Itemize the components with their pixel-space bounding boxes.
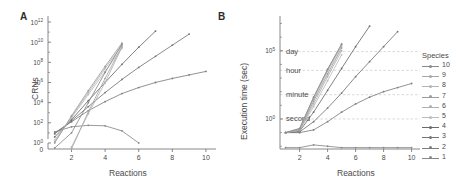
legend-label-6: 6	[442, 102, 446, 109]
legend-marker-3	[429, 136, 432, 139]
series-marker-3	[155, 55, 157, 57]
series-marker-1	[383, 147, 385, 149]
series-line-1	[286, 145, 412, 148]
series-marker-1	[71, 126, 73, 128]
series-marker-10	[285, 132, 287, 134]
series-marker-2	[121, 93, 123, 95]
series-marker-2	[397, 87, 399, 89]
series-marker-2	[205, 71, 207, 73]
series-marker-1	[121, 130, 123, 132]
series-marker-10	[71, 132, 73, 134]
series-marker-3	[397, 31, 399, 33]
series-line-4	[55, 31, 156, 137]
series-marker-1	[369, 147, 371, 149]
legend-label-4: 4	[442, 122, 446, 129]
series-marker-10	[327, 68, 329, 70]
series-marker-1	[313, 144, 315, 146]
svg-text:8: 8	[382, 154, 386, 161]
svg-text:10: 10	[202, 154, 210, 161]
svg-text:4: 4	[103, 154, 107, 161]
legend-label-2: 2	[442, 143, 446, 150]
legend-label-3: 3	[442, 132, 446, 139]
series-marker-2	[411, 83, 413, 85]
series-marker-3	[313, 121, 315, 123]
svg-text:100: 100	[265, 115, 275, 123]
series-line-1	[55, 125, 139, 143]
svg-text:2: 2	[298, 154, 302, 161]
legend-title: Species	[422, 51, 449, 60]
legend-label-7: 7	[442, 92, 446, 99]
series-marker-4	[369, 25, 371, 27]
svg-text:105: 105	[265, 47, 275, 55]
series-marker-10	[54, 147, 56, 149]
svg-text:102: 102	[33, 119, 43, 127]
svg-text:108: 108	[33, 58, 43, 66]
series-marker-1	[285, 147, 287, 149]
series-marker-4	[355, 46, 357, 48]
svg-text:1012: 1012	[31, 18, 44, 26]
svg-text:8: 8	[170, 154, 174, 161]
series-marker-10	[299, 128, 301, 130]
series-marker-5	[341, 54, 343, 56]
legend-marker-5	[429, 116, 432, 119]
series-marker-2	[188, 74, 190, 76]
series-marker-3	[54, 133, 56, 135]
series-marker-7	[54, 142, 56, 144]
series-marker-5	[327, 80, 329, 82]
series-marker-1	[138, 142, 140, 144]
series-marker-6	[341, 50, 343, 52]
legend-marker-10	[429, 65, 432, 68]
series-marker-2	[355, 103, 357, 105]
series-marker-7	[71, 115, 73, 117]
series-marker-1	[341, 147, 343, 149]
series-marker-1	[411, 147, 413, 149]
series-marker-2	[155, 82, 157, 84]
series-marker-4	[327, 89, 329, 91]
legend-label-10: 10	[442, 61, 450, 68]
series-marker-2	[171, 78, 173, 80]
figure-root: A CRNs Reactions 10010210410610810101012…	[0, 0, 470, 186]
svg-text:1010: 1010	[31, 38, 44, 46]
series-line-2	[55, 71, 206, 132]
series-marker-2	[327, 121, 329, 123]
legend-marker-8	[429, 85, 432, 88]
series-marker-4	[313, 111, 315, 113]
series-marker-2	[383, 91, 385, 93]
series-marker-2	[341, 111, 343, 113]
svg-text:0: 0	[39, 146, 43, 153]
series-marker-9	[71, 148, 73, 150]
svg-text:10: 10	[408, 154, 416, 161]
legend-label-8: 8	[442, 81, 446, 88]
series-marker-10	[313, 96, 315, 98]
svg-text:6: 6	[354, 154, 358, 161]
series-marker-7	[87, 90, 89, 92]
series-marker-8	[104, 82, 106, 84]
series-marker-10	[104, 72, 106, 74]
series-marker-9	[87, 111, 89, 113]
series-marker-9	[104, 78, 106, 80]
series-marker-2	[104, 101, 106, 103]
svg-text:6: 6	[137, 154, 141, 161]
series-marker-4	[341, 68, 343, 70]
svg-text:4: 4	[326, 154, 330, 161]
series-marker-3	[121, 79, 123, 81]
series-marker-4	[155, 30, 157, 32]
series-marker-3	[87, 106, 89, 108]
series-marker-1	[299, 147, 301, 149]
legend-marker-9	[429, 75, 432, 78]
series-marker-4	[54, 136, 56, 138]
series-marker-7	[104, 65, 106, 67]
series-marker-10	[341, 43, 343, 45]
panel-b-letter: B	[218, 11, 225, 22]
series-marker-3	[341, 92, 343, 94]
series-marker-3	[355, 76, 357, 78]
gridline-label-minute: minute	[286, 90, 309, 99]
gridline-label-hour: hour	[286, 66, 302, 75]
legend-marker-4	[429, 126, 432, 129]
gridline-label-day: day	[286, 47, 298, 56]
panel-a-plot: 100102104106108101010120246810	[0, 0, 228, 186]
svg-text:104: 104	[33, 99, 43, 107]
series-marker-1	[104, 125, 106, 127]
series-marker-3	[188, 33, 190, 35]
series-marker-3	[104, 92, 106, 94]
